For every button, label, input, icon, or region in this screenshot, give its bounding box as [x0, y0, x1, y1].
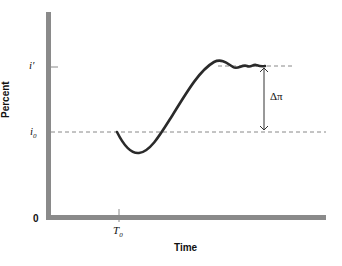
i0-label: i0: [30, 125, 37, 140]
zero-label: 0: [33, 213, 39, 224]
t0-label: T0: [113, 224, 123, 239]
chart-figure: Percent Time 0 i′ i0 T0 Δπ: [0, 0, 342, 266]
t0-sub: 0: [119, 231, 123, 239]
delta-pi-label: Δπ: [270, 90, 283, 102]
y-axis-label: Percent: [0, 81, 11, 118]
i-prime-mark: ′: [32, 59, 34, 71]
rate-curve: [117, 61, 265, 153]
chart-canvas: [0, 0, 342, 266]
i0-sub: 0: [33, 132, 37, 140]
i-prime-label: i′: [29, 59, 34, 71]
x-axis: [46, 215, 326, 220]
x-axis-label: Time: [174, 242, 197, 253]
y-axis: [46, 12, 51, 220]
